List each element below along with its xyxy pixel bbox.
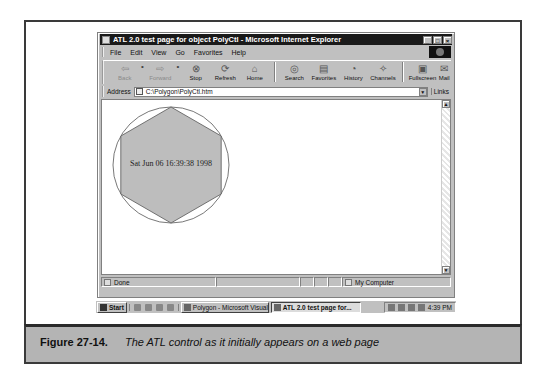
address-dropdown-button[interactable]: ▼ — [419, 88, 427, 96]
windows-logo-icon — [100, 304, 107, 311]
desktop-quicklaunch-icon[interactable] — [156, 304, 163, 311]
security-zone-pane: My Computer — [342, 277, 451, 287]
mail-icon: ✉ — [438, 63, 450, 74]
status-bar: Done My Computer — [101, 277, 451, 287]
stop-icon: ⊗ — [190, 63, 202, 74]
minimize-button[interactable]: _ — [423, 36, 432, 44]
caption-text: The ATL control as it initially appears … — [125, 336, 379, 348]
fullscreen-icon: ▣ — [417, 63, 429, 74]
refresh-button[interactable]: ⟳ Refresh — [210, 61, 240, 81]
address-label: Address — [107, 88, 131, 95]
channels-button[interactable]: ✧ Channels — [368, 61, 398, 81]
tray-icon-app[interactable] — [398, 304, 405, 311]
fullscreen-button[interactable]: ▣ Fullscreen — [408, 61, 438, 81]
ie-throbber-logo — [429, 46, 451, 58]
back-button[interactable]: ⇦ Back — [110, 61, 140, 81]
back-arrow-icon: ⇦ — [119, 63, 131, 74]
clock[interactable]: 4:39 PM — [428, 304, 452, 311]
volume-icon[interactable] — [408, 304, 415, 311]
menu-favorites[interactable]: Favorites — [194, 49, 223, 56]
toolbar-separator — [402, 62, 404, 82]
ie-logo-icon — [436, 48, 444, 56]
status-text-pane: Done — [101, 277, 216, 287]
status-pane-progress — [216, 277, 300, 287]
vertical-scrollbar[interactable]: ▲ ▼ — [441, 100, 450, 274]
figure-number: Figure 27-14. — [40, 336, 108, 348]
forward-button[interactable]: ⇨ Forward — [145, 61, 175, 81]
outlook-quicklaunch-icon[interactable] — [145, 304, 152, 311]
status-text: Done — [114, 279, 130, 286]
tray-icon-scheduler[interactable] — [418, 304, 425, 311]
status-pane-3 — [328, 277, 342, 287]
refresh-icon: ⟳ — [219, 63, 231, 74]
menu-view[interactable]: View — [151, 49, 166, 56]
menu-file[interactable]: File — [110, 49, 121, 56]
stop-button[interactable]: ⊗ Stop — [181, 61, 211, 81]
links-button[interactable]: Links — [431, 88, 451, 95]
polygon-control[interactable]: Sat Jun 06 16:39:38 1998 — [110, 104, 232, 226]
task-polygon-vc[interactable]: Polygon - Microsoft Visual ... — [181, 302, 269, 313]
menu-bar: File Edit View Go Favorites Help — [102, 47, 428, 57]
history-icon: ◔ — [347, 63, 359, 74]
menu-help[interactable]: Help — [232, 49, 246, 56]
channels-icon: ✧ — [377, 63, 389, 74]
status-pane-1 — [300, 277, 314, 287]
computer-icon — [345, 279, 352, 286]
search-icon: ◎ — [288, 63, 300, 74]
status-pane-2 — [314, 277, 328, 287]
favorites-button[interactable]: ▤ Favorites — [309, 61, 339, 81]
address-bar: Address C:\Polygon\PolyCtl.htm ▼ Links — [102, 86, 451, 97]
channels-quicklaunch-icon[interactable] — [167, 304, 174, 311]
home-button[interactable]: ⌂ Home — [240, 61, 270, 81]
system-tray: 4:39 PM — [384, 302, 456, 313]
window-title: ATL 2.0 test page for object PolyCtl - M… — [113, 35, 422, 44]
page-icon — [136, 88, 143, 95]
menu-edit[interactable]: Edit — [130, 49, 142, 56]
address-value: C:\Polygon\PolyCtl.htm — [146, 88, 419, 95]
date-label: Sat Jun 06 16:39:38 1998 — [110, 159, 232, 168]
ie-window: ATL 2.0 test page for object PolyCtl - M… — [97, 32, 455, 298]
scroll-down-arrow[interactable]: ▼ — [442, 266, 450, 274]
search-button[interactable]: ◎ Search — [280, 61, 310, 81]
visual-cpp-icon — [184, 304, 191, 311]
home-icon: ⌂ — [249, 63, 261, 74]
favorites-icon: ▤ — [318, 63, 330, 74]
task-ie-atl[interactable]: ATL 2.0 test page for... — [271, 302, 361, 313]
taskbar: Start Polygon - Microsoft Visual ... ATL… — [96, 300, 456, 313]
mail-button[interactable]: ✉ Mail — [437, 61, 451, 81]
ie-page-icon — [274, 304, 281, 311]
ie-page-icon — [102, 36, 110, 44]
toolbar: ⇦ Back • ⇨ Forward • ⊗ Stop ⟳ Refresh ⌂ … — [102, 60, 451, 84]
tray-icon-network[interactable] — [388, 304, 395, 311]
history-button[interactable]: ◔ History — [339, 61, 369, 81]
web-content: Sat Jun 06 16:39:38 1998 ▲ ▼ — [101, 99, 451, 275]
ie-quicklaunch-icon[interactable] — [134, 304, 141, 311]
page-done-icon — [104, 279, 111, 286]
menu-go[interactable]: Go — [175, 49, 184, 56]
close-button[interactable]: × — [443, 36, 452, 44]
address-input[interactable]: C:\Polygon\PolyCtl.htm ▼ — [134, 87, 428, 97]
start-button[interactable]: Start — [97, 302, 127, 313]
quick-launch — [129, 304, 179, 311]
maximize-button[interactable]: □ — [433, 36, 442, 44]
title-bar[interactable]: ATL 2.0 test page for object PolyCtl - M… — [100, 34, 452, 45]
forward-arrow-icon: ⇨ — [154, 63, 166, 74]
scroll-up-arrow[interactable]: ▲ — [442, 100, 450, 108]
figure-caption: Figure 27-14. The ATL control as it init… — [24, 324, 522, 364]
zone-text: My Computer — [355, 279, 394, 286]
toolbar-separator — [274, 62, 276, 82]
